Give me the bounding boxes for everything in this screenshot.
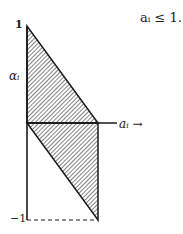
constraint-label: aᵢ ≤ 1. [140,10,182,25]
x-axis-label: aᵢ → [119,117,142,131]
y-tick-top: 1 [15,18,23,31]
lower-hatched-region [27,123,98,220]
y-axis-label: αᵢ [9,69,20,83]
feasible-region-diagram [0,0,183,234]
y-tick-bottom: −1 [10,212,26,225]
upper-hatched-region [27,26,98,123]
